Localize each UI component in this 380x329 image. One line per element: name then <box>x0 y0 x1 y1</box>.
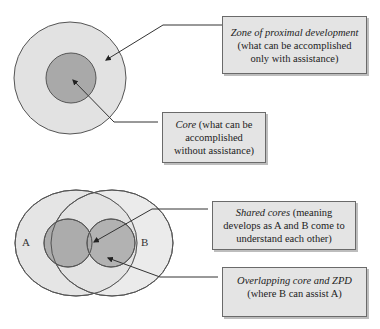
shared-cores-callout-box: Shared cores (meaning develops as A and … <box>212 201 356 250</box>
zpd-callout-description: (what can be accomplished only with assi… <box>238 40 352 64</box>
core-callout-box: Core (what can be accomplished without a… <box>162 112 266 163</box>
zpd-connector-line <box>106 25 222 60</box>
zpd-callout-term: Zone of proximal development <box>231 27 359 38</box>
bottom-shared-diagram <box>15 190 218 296</box>
zpd-callout-box: Zone of proximal development (what can b… <box>222 16 367 74</box>
core-callout-term: Core <box>176 119 197 130</box>
overlap-callout-term: Overlapping core and ZPD <box>237 275 352 286</box>
overlap-callout-box: Overlapping core and ZPD (where B can as… <box>222 267 367 317</box>
overlap-callout-description: (where B can assist A) <box>247 288 341 299</box>
shared-cores-callout-term: Shared cores <box>236 207 290 218</box>
person-a-label: A <box>22 236 30 248</box>
person-b-label: B <box>141 236 148 248</box>
